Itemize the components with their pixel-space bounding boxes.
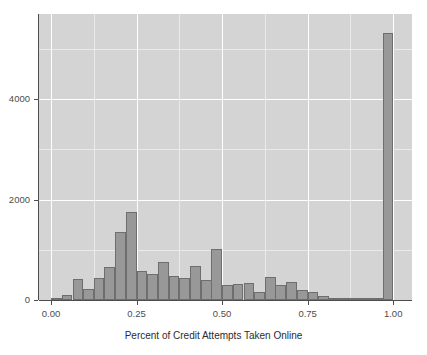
y-axis-tick xyxy=(34,200,38,201)
histogram-bar xyxy=(83,289,94,300)
x-axis-tick-label: 0.00 xyxy=(21,308,81,319)
x-axis-line xyxy=(39,300,412,301)
histogram-bar xyxy=(169,276,180,300)
histogram-bar xyxy=(265,277,276,300)
x-axis-tick xyxy=(308,301,309,305)
histogram-bar xyxy=(222,285,233,300)
y-axis-line xyxy=(38,14,39,300)
y-axis-tick xyxy=(34,99,38,100)
y-axis-tick-label: 4000 xyxy=(0,93,30,104)
x-axis-tick xyxy=(222,301,223,305)
histogram-bar xyxy=(297,290,308,300)
y-axis-tick-label: 0 xyxy=(0,294,30,305)
x-axis-tick xyxy=(51,301,52,305)
x-axis-tick-label: 0.50 xyxy=(192,308,252,319)
histogram-bar xyxy=(126,212,137,300)
histogram-bar xyxy=(308,292,319,300)
x-axis-tick xyxy=(137,301,138,305)
bar-series xyxy=(39,14,412,300)
histogram-bar xyxy=(201,280,212,300)
histogram-bar xyxy=(190,266,201,300)
histogram-bar xyxy=(158,262,169,300)
histogram-bar xyxy=(137,271,148,300)
x-axis-tick xyxy=(393,301,394,305)
histogram-bar xyxy=(286,282,297,300)
histogram-bar xyxy=(254,292,265,300)
y-axis-tick xyxy=(34,300,38,301)
histogram-bar xyxy=(115,232,126,300)
histogram-bar xyxy=(244,283,255,300)
histogram-bar xyxy=(383,33,394,300)
histogram-bar xyxy=(94,278,105,300)
histogram-bar xyxy=(147,274,158,300)
x-axis-title: Percent of Credit Attempts Taken Online xyxy=(0,330,427,341)
histogram-chart: 020004000 0.000.250.500.751.00 Percent o… xyxy=(0,0,427,355)
histogram-bar xyxy=(211,249,222,300)
y-axis-tick-label: 2000 xyxy=(0,194,30,205)
histogram-bar xyxy=(233,284,244,300)
histogram-bar xyxy=(275,285,286,300)
histogram-bar xyxy=(73,279,84,300)
histogram-bar xyxy=(104,267,115,300)
histogram-bar xyxy=(179,278,190,300)
x-axis-tick-label: 0.25 xyxy=(107,308,167,319)
plot-panel xyxy=(39,14,412,300)
x-axis-tick-label: 1.00 xyxy=(363,308,423,319)
x-axis-tick-label: 0.75 xyxy=(278,308,338,319)
